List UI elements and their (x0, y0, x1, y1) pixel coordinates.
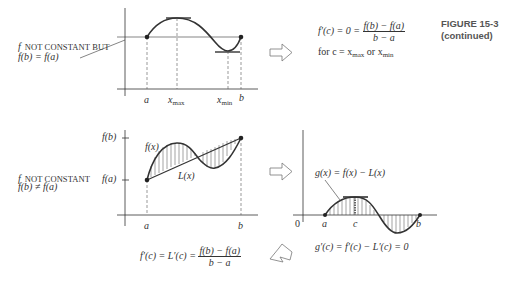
top-result-formula: f′(c) = 0 = f(b) − f(a) b − a (318, 20, 405, 43)
bottom-caption-condition: f(b) ≠ f(a) (18, 181, 57, 192)
arrow-right-icon (270, 44, 292, 61)
arrow-down-left-icon (270, 244, 292, 262)
x-label-xmax: xmax (168, 94, 185, 107)
arrow-right-icon (270, 163, 292, 180)
x-label-a: a (144, 220, 149, 231)
x-label-c: c (353, 218, 357, 229)
curve-label-L: L(x) (178, 170, 195, 181)
y-label-fb: f(b) (102, 131, 116, 142)
top-result-condition: for c = xmax or xmin (318, 46, 394, 59)
y-label-fa: f(a) (102, 173, 116, 184)
figure-subtitle: (continued) (441, 30, 499, 42)
x-label-a: a (322, 218, 327, 229)
curve-label-f: f(x) (145, 141, 159, 152)
x-label-xmin: xmin (217, 94, 232, 107)
origin-label: 0 (295, 218, 300, 229)
x-label-a: a (144, 94, 149, 105)
top-caption-condition: f(b) = f(a) (18, 51, 59, 62)
figure-title: FIGURE 15-3 (441, 18, 499, 30)
x-label-b: b (416, 218, 421, 229)
x-label-b: b (239, 92, 244, 103)
bottom-left-result-formula: f′(c) = L′(c) = f(b) − f(a) b − a (140, 245, 241, 268)
bottom-right-result: g′(c) = f′(c) − L′(c) = 0 (315, 241, 408, 252)
curve-label-g: g(x) = f(x) − L(x) (315, 167, 385, 178)
figure-label: FIGURE 15-3 (continued) (441, 18, 499, 42)
x-label-b: b (238, 220, 243, 231)
